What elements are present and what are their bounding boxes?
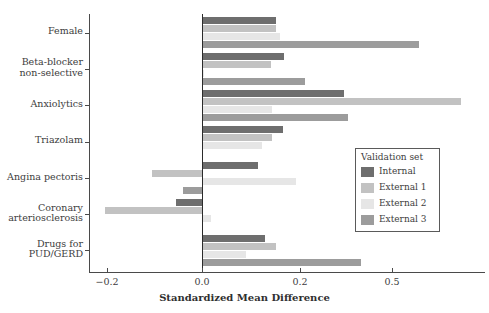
x-axis-title: Standardized Mean Difference xyxy=(0,292,489,303)
x-axis-tick-label: 0.5 xyxy=(384,276,399,287)
y-axis-tick-mark xyxy=(85,69,90,70)
zero-reference-line xyxy=(202,14,203,272)
bar xyxy=(202,259,361,266)
bar xyxy=(202,33,280,40)
x-axis-spine xyxy=(89,272,485,273)
chart-container: FemaleBeta-blocker non-selectiveAnxiolyt… xyxy=(0,0,489,313)
bar xyxy=(202,17,276,24)
bar xyxy=(202,251,246,258)
legend-label: External 2 xyxy=(379,198,427,208)
y-axis-tick-mark xyxy=(85,214,90,215)
bar xyxy=(202,61,271,68)
bar xyxy=(202,134,272,141)
legend-swatch xyxy=(361,183,374,193)
y-axis-tick-mark xyxy=(85,142,90,143)
bar xyxy=(202,114,348,121)
legend-swatch xyxy=(361,199,374,209)
y-axis-tick-mark xyxy=(85,105,90,106)
bar xyxy=(176,199,202,206)
x-axis-tick-label: 0.2 xyxy=(292,276,307,287)
y-axis-label: Female xyxy=(0,26,83,37)
x-axis-tick-mark xyxy=(202,268,203,273)
bar xyxy=(183,187,202,194)
bar xyxy=(202,215,211,222)
legend-label: External 3 xyxy=(379,214,427,224)
legend-label: Internal xyxy=(379,166,416,176)
bar xyxy=(202,25,276,32)
bar xyxy=(202,235,265,242)
bar xyxy=(202,162,258,169)
y-axis-label: Coronary arteriosclerosis xyxy=(0,203,83,224)
bar xyxy=(152,170,202,177)
bar xyxy=(202,90,344,97)
y-axis-label: Angina pectoris xyxy=(0,172,83,183)
y-axis-label: Anxiolytics xyxy=(0,99,83,110)
y-axis-tick-mark xyxy=(85,178,90,179)
legend-label: External 1 xyxy=(379,182,427,192)
y-axis-tick-mark xyxy=(85,250,90,251)
bar xyxy=(202,53,284,60)
bar xyxy=(202,243,276,250)
bar xyxy=(202,178,296,185)
x-axis-tick-mark xyxy=(392,268,393,273)
y-axis-spine xyxy=(89,14,90,272)
legend-title: Validation set xyxy=(361,152,423,162)
bar xyxy=(202,126,283,133)
y-axis-label: Drugs for PUD/GERD xyxy=(0,239,83,260)
bar xyxy=(202,41,419,48)
x-axis-tick-mark xyxy=(300,268,301,273)
bar xyxy=(202,78,305,85)
y-axis-label: Beta-blocker non-selective xyxy=(0,57,83,78)
x-axis-tick-label: −0.2 xyxy=(95,276,118,287)
legend-swatch xyxy=(361,167,374,177)
bar xyxy=(202,98,461,105)
x-axis-tick-label: 0.0 xyxy=(194,276,209,287)
y-axis-label: Triazolam xyxy=(0,135,83,146)
legend-swatch xyxy=(361,215,374,225)
bar xyxy=(105,207,202,214)
bar xyxy=(202,142,262,149)
x-axis-tick-mark xyxy=(107,268,108,273)
y-axis-tick-mark xyxy=(85,33,90,34)
bar xyxy=(202,106,272,113)
